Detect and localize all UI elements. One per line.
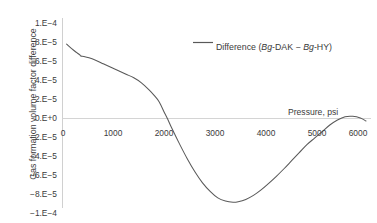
y-tick-label: −6.E−5: [12, 164, 57, 182]
x-tick-label: 0: [47, 122, 79, 140]
x-tick-label: 1000: [97, 122, 129, 140]
y-tick-label: 2.E−5: [12, 88, 57, 106]
x-tick-label: 2000: [148, 122, 180, 140]
legend-mid: -DAK −: [272, 42, 303, 52]
y-tick-label: 1.E−4: [12, 12, 57, 30]
x-axis-title-text: Pressure, psi: [288, 107, 338, 117]
x-axis-title: Pressure, psi: [288, 101, 338, 119]
y-tick-label: −8.E−5: [12, 183, 57, 201]
x-tick-label: 5000: [301, 122, 333, 140]
x-tick-label: 3000: [199, 122, 231, 140]
legend-label-difference: Difference (Bg-DAK − Bg-HY): [216, 42, 332, 52]
chart-container: Gas formation volume factor difference 1…: [0, 0, 377, 223]
x-tick-label: 4000: [250, 122, 282, 140]
legend-italic-bg-1: Bg: [261, 42, 272, 52]
y-tick-label: −4.E−5: [12, 145, 57, 163]
y-tick-label: 6.E−5: [12, 50, 57, 68]
y-tick-label: 8.E−5: [12, 31, 57, 49]
x-tick-label: 6000: [342, 122, 374, 140]
y-tick-label: 4.E−5: [12, 69, 57, 87]
y-tick-label: −1.E−4: [12, 202, 57, 220]
legend-entry-difference: Difference (Bg-DAK − Bg-HY): [216, 36, 332, 54]
legend-prefix: Difference (: [216, 42, 261, 52]
legend-suffix: -HY): [314, 42, 332, 52]
legend-italic-bg-2: Bg: [303, 42, 314, 52]
